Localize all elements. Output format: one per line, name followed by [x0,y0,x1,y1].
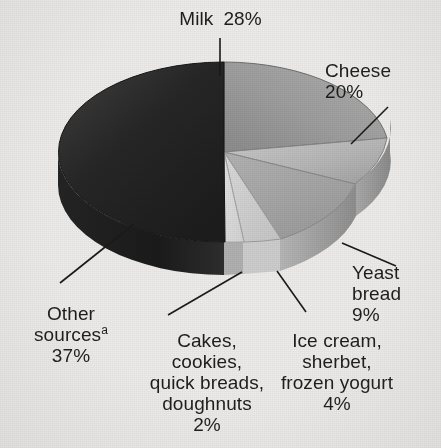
label-ice-cream-line1: Ice cream, [252,330,422,351]
label-cakes-line5: 2% [132,414,282,435]
side-wall-ice-cream [243,238,280,274]
label-yeast-line1: Yeast [352,262,441,283]
label-ice-cream-line4: 4% [252,393,422,414]
label-ice-cream: Ice cream, sherbet, frozen yogurt 4% [252,330,422,414]
label-ice-cream-line3: frozen yogurt [252,372,422,393]
label-yeast-line3: 9% [352,304,441,325]
leader-line-ice-cream [277,271,306,312]
label-other-line2: sourcesa [8,324,134,345]
label-other-line1: Other [8,303,134,324]
label-ice-cream-line2: sherbet, [252,351,422,372]
label-milk: Milk28% [0,8,441,29]
label-cheese-line2: 20% [325,81,441,102]
label-yeast-bread: Yeast bread 9% [352,262,441,325]
leader-line-cakes [168,272,242,315]
label-other-sources: Other sourcesa 37% [8,303,134,366]
label-other-line3: 37% [8,345,134,366]
label-other-sources-word: sources [34,324,101,345]
label-cheese-line1: Cheese [325,60,441,81]
side-wall-cakes [224,241,243,275]
label-milk-name: Milk [179,8,213,29]
label-cheese: Cheese 20% [325,60,441,102]
label-milk-value: 28% [223,8,261,29]
label-other-footnote-marker: a [101,323,108,337]
label-yeast-line2: bread [352,283,441,304]
